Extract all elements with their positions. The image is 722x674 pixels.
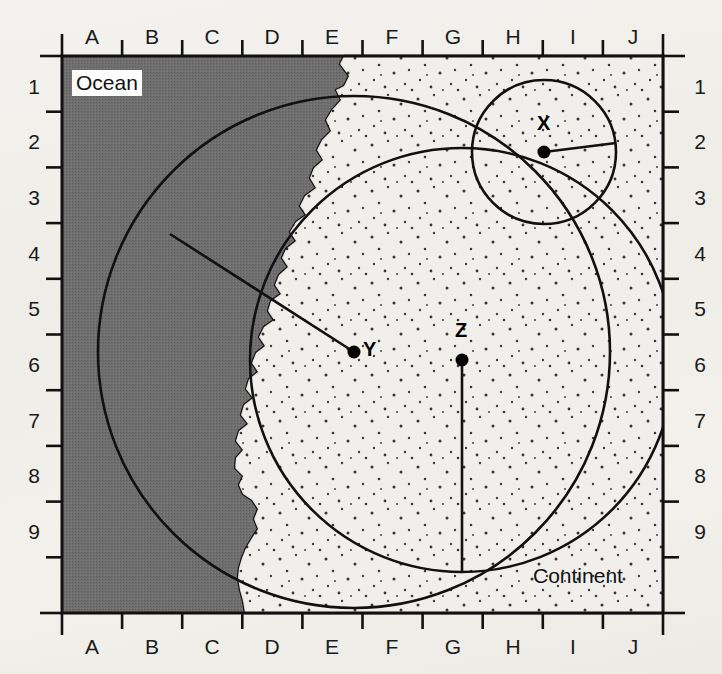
- axis-bottom-label-g: G: [440, 636, 466, 657]
- point-x: [538, 146, 551, 159]
- axis-top-label-a: A: [79, 26, 105, 47]
- point-z: [456, 354, 469, 367]
- axis-bottom-label-f: F: [379, 636, 405, 657]
- axis-right-label-5: 5: [690, 298, 710, 319]
- axis-left-label-3: 3: [24, 187, 44, 208]
- axis-left-label-6: 6: [24, 354, 44, 375]
- continent-label: Continent: [533, 565, 623, 586]
- axis-left-label-4: 4: [24, 243, 44, 264]
- axis-top-label-i: I: [560, 26, 586, 47]
- axis-bottom-label-a: A: [79, 636, 105, 657]
- axis-bottom-label-c: C: [199, 636, 225, 657]
- axis-top-label-b: B: [139, 26, 165, 47]
- axis-bottom-label-b: B: [139, 636, 165, 657]
- axis-left-label-8: 8: [24, 465, 44, 486]
- axis-left-label-7: 7: [24, 410, 44, 431]
- axis-bottom-label-d: D: [259, 636, 285, 657]
- axis-left-label-2: 2: [24, 131, 44, 152]
- axis-right-label-1: 1: [690, 76, 710, 97]
- axis-right-label-2: 2: [690, 131, 710, 152]
- axis-bottom-label-e: E: [319, 636, 345, 657]
- axis-top-label-j: J: [620, 26, 646, 47]
- axis-left-label-1: 1: [24, 76, 44, 97]
- axis-top-label-g: G: [440, 26, 466, 47]
- axis-right-label-3: 3: [690, 187, 710, 208]
- point-y: [348, 346, 361, 359]
- axis-top-label-h: H: [500, 26, 526, 47]
- point-label-y: Y: [363, 339, 376, 359]
- ocean-label: Ocean: [72, 70, 142, 96]
- axis-top-label-d: D: [259, 26, 285, 47]
- axis-bottom-label-j: J: [620, 636, 646, 657]
- axis-bottom-label-h: H: [500, 636, 526, 657]
- axis-left-label-5: 5: [24, 298, 44, 319]
- axis-top-label-f: F: [379, 26, 405, 47]
- axis-top-label-e: E: [319, 26, 345, 47]
- axis-top-label-c: C: [199, 26, 225, 47]
- axis-right-label-9: 9: [690, 521, 710, 542]
- axis-right-label-6: 6: [690, 354, 710, 375]
- axis-right-label-4: 4: [690, 243, 710, 264]
- axis-bottom-label-i: I: [560, 636, 586, 657]
- axis-right-label-7: 7: [690, 410, 710, 431]
- axis-right-label-8: 8: [690, 465, 710, 486]
- point-label-z: Z: [455, 320, 467, 340]
- axis-left-label-9: 9: [24, 521, 44, 542]
- point-label-x: X: [537, 113, 550, 133]
